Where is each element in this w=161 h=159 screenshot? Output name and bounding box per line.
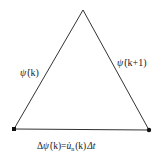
- right-edge: [83, 10, 149, 130]
- bottom-edge-label: Δψ̇(k)=u̇n(k)Δt: [37, 141, 96, 152]
- triangle-diagram: ψ̇(k) ψ̇(k+1) Δψ̇(k)=u̇n(k)Δt: [0, 0, 161, 159]
- bottom-right-vertex-marker: [147, 128, 151, 132]
- bottom-edge: [14, 129, 149, 130]
- right-edge-label: ψ̇(k+1): [117, 57, 147, 69]
- bottom-left-vertex-marker: [12, 127, 16, 131]
- left-edge-label: ψ̇(k): [20, 67, 39, 79]
